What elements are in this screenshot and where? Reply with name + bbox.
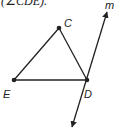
segment-ec — [14, 28, 59, 80]
triangle-diagram: C E D m — [0, 0, 124, 134]
label-e: E — [3, 88, 11, 100]
point-c — [57, 26, 62, 31]
label-c: C — [64, 17, 72, 29]
triangle-cde — [14, 28, 87, 80]
label-d: D — [84, 88, 92, 100]
point-d — [85, 78, 90, 83]
point-e — [12, 78, 17, 83]
label-m: m — [105, 0, 114, 11]
line-m — [72, 12, 107, 127]
segment-cd — [59, 28, 87, 80]
